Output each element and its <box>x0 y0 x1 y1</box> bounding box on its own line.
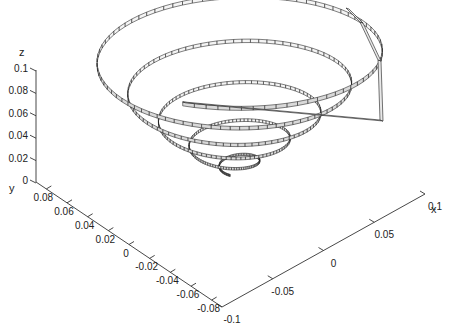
ribbon-facet <box>180 145 184 150</box>
ribbon-facet <box>254 155 258 159</box>
ribbon-facet <box>240 119 244 122</box>
ribbon-facet <box>167 137 170 142</box>
y-tick-label: 0.06 <box>54 206 74 217</box>
ribbon-facet <box>147 121 152 127</box>
ribbon-facet <box>286 85 291 89</box>
ribbon-facet <box>266 121 269 125</box>
ribbon-facet <box>192 0 202 3</box>
ribbon-facet <box>170 99 173 104</box>
z-axis-label: z <box>19 46 25 58</box>
ribbon-facet <box>201 160 203 164</box>
ribbon-facet <box>198 129 200 133</box>
ribbon-facet <box>300 90 304 95</box>
ribbon-facet <box>276 103 287 108</box>
ribbon-facet <box>211 155 216 159</box>
ribbon-facet <box>333 6 341 13</box>
ribbon-facet <box>339 61 343 68</box>
ribbon-facet <box>231 157 236 160</box>
y-tick-label: 0.08 <box>34 192 54 203</box>
ribbon-facet <box>329 55 334 61</box>
ribbon-facet <box>134 72 137 79</box>
ribbon-facet <box>217 40 225 44</box>
ribbon-facet <box>139 12 147 19</box>
ribbon-facet <box>197 152 202 156</box>
ribbon-facet <box>175 134 181 139</box>
z-tick-label: 0.08 <box>9 85 29 96</box>
z-tick-label: 0.04 <box>9 130 29 141</box>
ribbon-facet <box>337 101 341 108</box>
y-tick-label: 0.02 <box>96 234 116 245</box>
ribbon-facet <box>341 98 344 105</box>
ribbon-facet <box>252 119 256 122</box>
ribbon-facet <box>287 0 297 2</box>
ribbon-facet <box>112 90 117 98</box>
ribbon-facet <box>114 27 119 35</box>
ribbon-facet <box>325 4 333 10</box>
ribbon-facet <box>278 138 284 143</box>
ribbon-facet <box>105 35 109 43</box>
ribbon-facet <box>237 167 239 170</box>
spiral-ribbon <box>97 0 383 177</box>
y-tick <box>212 297 217 300</box>
z-tick <box>30 135 36 138</box>
ribbon-facet <box>342 64 345 71</box>
ribbon-facet <box>250 39 258 43</box>
ribbon-facet <box>213 164 216 167</box>
ribbon-facet <box>165 135 167 140</box>
ribbon-facet <box>170 139 173 144</box>
x-tick <box>369 219 374 222</box>
x-axis-label: x <box>431 203 437 215</box>
ribbon-facet <box>334 58 338 64</box>
ribbon-facet <box>203 0 213 1</box>
ribbon-facet <box>176 144 180 149</box>
ribbon-facet <box>234 168 237 171</box>
ribbon-facet <box>375 31 378 39</box>
ribbon-facet <box>259 155 263 159</box>
ribbon-facet <box>223 167 226 170</box>
ribbon-facet <box>267 124 276 129</box>
ribbon-facet <box>149 112 157 118</box>
ribbon-facet <box>225 39 233 43</box>
ribbon-facet <box>201 42 209 47</box>
ribbon-facet <box>269 82 275 86</box>
x-tick-label: 0 <box>331 258 337 269</box>
ribbon-facet <box>202 153 207 157</box>
x-tick <box>319 248 324 251</box>
ribbon-facet <box>211 125 221 129</box>
y-tick <box>191 283 196 286</box>
ribbon-facet <box>139 115 143 121</box>
ribbon-facet <box>270 152 273 156</box>
ribbon-facet <box>316 2 325 8</box>
ribbon-facet <box>371 27 375 35</box>
ribbon-facet <box>144 62 149 69</box>
ribbon-facet <box>201 128 203 132</box>
ribbon-facet <box>223 143 230 147</box>
ribbon-facet <box>283 127 285 131</box>
ribbon-facet <box>199 158 201 162</box>
ribbon-facet <box>233 119 237 122</box>
ribbon-facet <box>186 45 193 50</box>
ribbon-facet <box>239 167 241 170</box>
ribbon-facet <box>104 81 107 89</box>
ribbon-facet <box>244 119 248 122</box>
ribbon-facet <box>152 124 157 130</box>
ribbon-facet <box>299 131 303 136</box>
y-tick <box>170 269 175 272</box>
ribbon-facet <box>183 121 192 126</box>
y-tick-label: -0.04 <box>156 275 179 286</box>
y-tick-label: -0.02 <box>135 261 158 272</box>
ribbon-facet <box>218 166 221 169</box>
ribbon-facet <box>294 133 299 138</box>
ribbon-facet <box>215 122 218 126</box>
ribbon-facet <box>101 77 104 85</box>
ribbon-facet <box>285 121 293 126</box>
ribbon-facet <box>229 119 233 122</box>
ribbon-facet <box>183 0 193 5</box>
y-tick <box>46 186 51 189</box>
x-tick-label: -0.05 <box>271 286 294 297</box>
ribbon-facet <box>259 120 263 123</box>
ribbon-facet <box>225 120 229 123</box>
ribbon-facet <box>344 94 347 101</box>
ribbon-facet <box>176 94 180 99</box>
ribbon-facet <box>316 120 318 126</box>
